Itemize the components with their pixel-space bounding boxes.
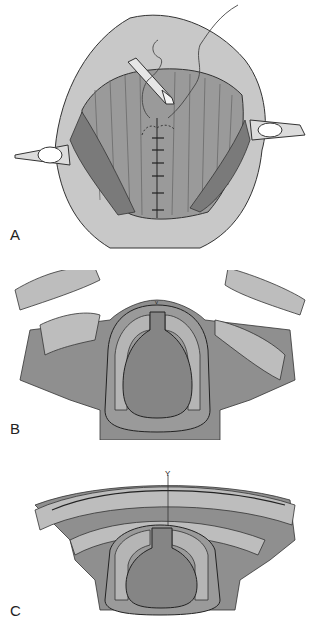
surgical-field-illustration — [0, 0, 315, 250]
retractor-right — [250, 120, 305, 140]
retractor-left — [15, 145, 70, 165]
panel-label-a: A — [10, 226, 20, 243]
cross-section-before-closure: v — [0, 270, 315, 440]
cross-section-after-closure: Y — [0, 460, 315, 623]
svg-text:v: v — [155, 299, 158, 305]
panel-label-c: C — [10, 602, 21, 619]
panel-c: Y C — [0, 460, 315, 623]
panel-label-b: B — [10, 420, 20, 437]
panel-a: A — [0, 0, 315, 250]
panel-b: v B — [0, 270, 315, 440]
svg-text:Y: Y — [165, 469, 171, 478]
